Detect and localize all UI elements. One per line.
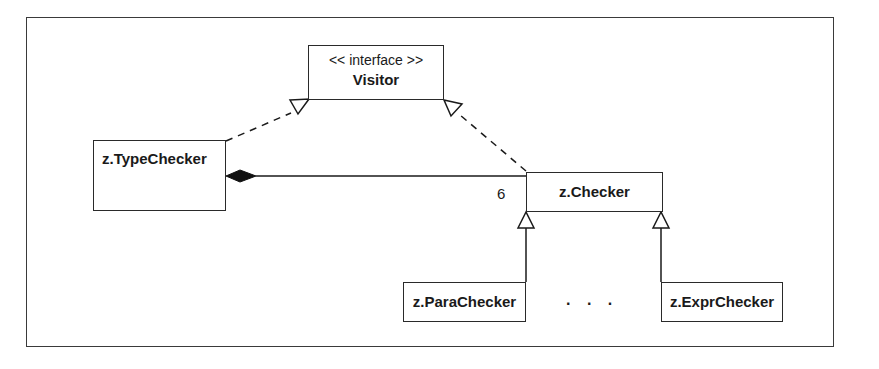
class-checker: z.Checker bbox=[526, 172, 663, 212]
typechecker-name: z.TypeChecker bbox=[102, 150, 225, 167]
realization-checker-visitor bbox=[460, 115, 526, 171]
checker-name: z.Checker bbox=[527, 183, 662, 200]
realization-arrowhead-left-icon bbox=[290, 99, 309, 114]
multiplicity-label: 6 bbox=[497, 185, 505, 202]
visitor-stereotype: << interface >> bbox=[309, 52, 443, 68]
realization-arrowhead-right-icon bbox=[444, 100, 462, 116]
class-visitor: << interface >> Visitor bbox=[308, 45, 444, 100]
exprchecker-name: z.ExprChecker bbox=[662, 293, 782, 310]
visitor-name: Visitor bbox=[309, 71, 443, 88]
generalization-arrowhead-right-icon bbox=[653, 212, 669, 228]
realization-typechecker-visitor bbox=[226, 113, 291, 141]
parachecker-name: z.ParaChecker bbox=[404, 293, 525, 310]
composition-diamond-icon bbox=[226, 170, 256, 182]
class-typechecker: z.TypeChecker bbox=[93, 140, 226, 211]
generalization-arrowhead-left-icon bbox=[518, 212, 534, 228]
ellipsis: . . . bbox=[566, 291, 618, 309]
class-exprchecker: z.ExprChecker bbox=[661, 282, 783, 322]
class-parachecker: z.ParaChecker bbox=[403, 282, 526, 322]
